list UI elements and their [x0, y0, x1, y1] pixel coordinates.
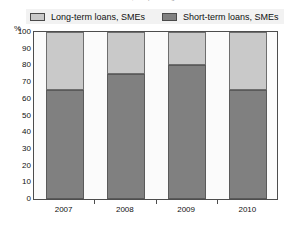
legend-swatch-icon-short-term: [162, 13, 177, 21]
bar-segment-short-term-2010[interactable]: [229, 90, 267, 199]
legend-swatch-icon-long-term: [30, 13, 45, 21]
bar-2009[interactable]: [168, 32, 206, 199]
chart-legend: Long-term loans, SMEs Short-term loans, …: [26, 9, 284, 24]
bar-2008[interactable]: [107, 32, 145, 199]
x-tick-label-2009: 2009: [163, 205, 209, 215]
x-axis-tick-labels: 2007200820092010: [33, 205, 278, 219]
chart-title-strip: Annual, as a percentage: [0, 0, 291, 7]
bar-segment-short-term-2009[interactable]: [168, 65, 206, 199]
bar-2010[interactable]: [229, 32, 267, 199]
x-tick-label-2010: 2010: [224, 205, 270, 215]
plot-area: [33, 31, 278, 200]
bar-segment-long-term-2009[interactable]: [168, 32, 206, 65]
bar-segment-long-term-2010[interactable]: [229, 32, 267, 90]
bar-segment-long-term-2008[interactable]: [107, 32, 145, 74]
legend-label-long-term: Long-term loans, SMEs: [51, 12, 145, 22]
chart-title: Annual, as a percentage: [0, 0, 291, 2]
legend-item-long-term[interactable]: Long-term loans, SMEs: [30, 9, 145, 24]
bar-segment-short-term-2007[interactable]: [46, 90, 84, 199]
legend-item-short-term[interactable]: Short-term loans, SMEs: [162, 9, 279, 24]
bar-segment-short-term-2008[interactable]: [107, 74, 145, 199]
chart-area: % 1009080706050403020100 200720082009201…: [0, 24, 291, 229]
x-tick-mark: [94, 200, 95, 204]
legend-label-short-term: Short-term loans, SMEs: [183, 12, 279, 22]
x-tick-mark: [217, 200, 218, 204]
bar-2007[interactable]: [46, 32, 84, 199]
x-tick-label-2008: 2008: [102, 205, 148, 215]
x-tick-mark: [156, 200, 157, 204]
bar-segment-long-term-2007[interactable]: [46, 32, 84, 90]
x-tick-label-2007: 2007: [41, 205, 87, 215]
